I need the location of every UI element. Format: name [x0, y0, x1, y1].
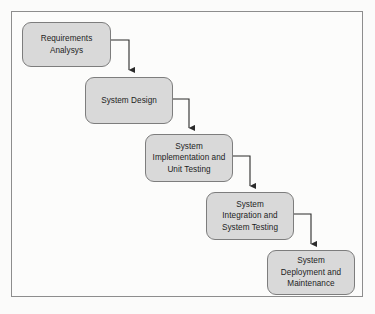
node-label: System Deployment and Maintenance — [281, 255, 341, 289]
node-label: System Implementation and Unit Testing — [153, 141, 226, 175]
connector-system-implementation-and-unit-testing-to-system-integration-and-system-testing — [233, 156, 250, 186]
node-label: Requirements Analysys — [41, 33, 93, 56]
connector-requirements-analysys-to-system-design — [111, 40, 129, 70]
connector-system-design-to-system-implementation-and-unit-testing — [173, 99, 189, 128]
node-system-deployment-and-maintenance[interactable]: System Deployment and Maintenance — [267, 250, 355, 295]
node-system-design[interactable]: System Design — [85, 77, 173, 124]
node-label: System Integration and System Testing — [222, 199, 278, 233]
diagram-canvas: Requirements AnalysysSystem DesignSystem… — [0, 0, 375, 314]
connector-system-integration-and-system-testing-to-system-deployment-and-maintenance — [294, 214, 311, 244]
node-system-implementation-and-unit-testing[interactable]: System Implementation and Unit Testing — [145, 134, 233, 182]
node-requirements-analysys[interactable]: Requirements Analysys — [22, 22, 111, 67]
node-label: System Design — [101, 95, 157, 106]
node-system-integration-and-system-testing[interactable]: System Integration and System Testing — [206, 192, 294, 240]
